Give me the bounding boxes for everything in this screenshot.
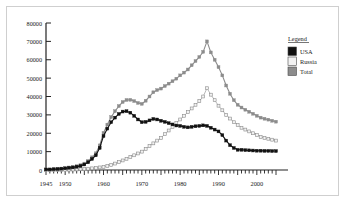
- data-point-marker: [244, 149, 247, 152]
- data-point-marker: [45, 168, 48, 171]
- data-point-marker: [102, 135, 105, 138]
- data-point-marker: [125, 99, 128, 102]
- data-point-marker: [167, 129, 170, 132]
- data-point-marker: [217, 130, 220, 133]
- data-point-marker: [236, 148, 239, 151]
- data-point-marker: [129, 156, 132, 159]
- y-tick-label: 0: [39, 167, 42, 174]
- data-point-marker: [202, 124, 205, 127]
- data-point-marker: [263, 149, 266, 152]
- data-series-group: [45, 40, 278, 172]
- data-point-marker: [194, 103, 197, 106]
- data-point-marker: [259, 149, 262, 152]
- data-point-marker: [125, 157, 128, 160]
- legend-swatch-russia: [288, 57, 297, 66]
- data-point-marker: [102, 165, 105, 168]
- data-point-marker: [121, 110, 124, 113]
- data-point-marker: [175, 124, 178, 127]
- x-tick-label: 1980: [174, 180, 187, 187]
- data-point-marker: [183, 114, 186, 117]
- data-point-marker: [229, 144, 232, 147]
- legend-label-total: Total: [300, 68, 313, 75]
- data-point-marker: [232, 121, 235, 124]
- data-point-marker: [179, 124, 182, 127]
- data-point-marker: [255, 114, 258, 117]
- data-point-marker: [144, 120, 147, 123]
- data-point-marker: [217, 104, 220, 107]
- data-point-marker: [121, 101, 124, 104]
- data-point-marker: [244, 128, 247, 131]
- data-point-marker: [144, 147, 147, 150]
- data-point-marker: [87, 161, 90, 164]
- data-point-marker: [179, 74, 182, 77]
- data-point-marker: [75, 168, 78, 171]
- data-point-marker: [213, 128, 216, 131]
- data-point-marker: [229, 117, 232, 120]
- data-point-marker: [240, 148, 243, 151]
- data-point-marker: [79, 165, 82, 168]
- data-point-marker: [171, 123, 174, 126]
- data-point-marker: [252, 149, 255, 152]
- data-point-marker: [137, 152, 140, 155]
- y-tick-label: 70000: [27, 38, 42, 45]
- data-point-marker: [190, 64, 193, 67]
- legend-title: Legend: [288, 35, 308, 42]
- data-point-marker: [106, 165, 109, 168]
- data-point-marker: [232, 147, 235, 150]
- data-point-marker: [137, 118, 140, 121]
- data-point-marker: [194, 125, 197, 128]
- data-point-marker: [110, 163, 113, 166]
- data-point-marker: [240, 126, 243, 129]
- data-point-marker: [213, 58, 216, 61]
- data-point-marker: [114, 110, 117, 113]
- data-point-marker: [229, 92, 232, 95]
- data-point-marker: [152, 142, 155, 145]
- data-point-marker: [198, 124, 201, 127]
- data-point-marker: [83, 168, 86, 171]
- data-point-marker: [114, 116, 117, 119]
- y-tick-label: 30000: [27, 111, 42, 118]
- data-point-marker: [275, 139, 278, 142]
- x-axis-tick-labels: 1945195019601970198019902000: [40, 180, 264, 187]
- data-point-marker: [252, 112, 255, 115]
- data-point-marker: [267, 149, 270, 152]
- data-point-marker: [156, 89, 159, 92]
- data-point-marker: [255, 134, 258, 137]
- series-russia: [45, 87, 278, 172]
- data-point-marker: [148, 145, 151, 148]
- data-point-marker: [209, 126, 212, 129]
- data-point-marker: [91, 158, 94, 161]
- data-point-marker: [114, 162, 117, 165]
- data-point-marker: [194, 60, 197, 63]
- data-point-marker: [213, 99, 216, 102]
- chart-svg: 0100002000030000400005000060000700008000…: [0, 0, 347, 204]
- data-point-marker: [225, 113, 228, 116]
- data-point-marker: [117, 161, 120, 164]
- data-point-marker: [156, 118, 159, 121]
- data-point-marker: [221, 109, 224, 112]
- data-point-marker: [202, 50, 205, 53]
- legend-label-russia: Russia: [300, 58, 317, 65]
- data-point-marker: [52, 168, 55, 171]
- data-point-marker: [271, 138, 274, 141]
- data-point-marker: [225, 139, 228, 142]
- y-tick-label: 10000: [27, 148, 42, 155]
- data-point-marker: [110, 116, 113, 119]
- data-point-marker: [60, 167, 63, 170]
- data-point-marker: [221, 74, 224, 77]
- data-point-marker: [133, 100, 136, 103]
- data-point-marker: [148, 119, 151, 122]
- data-point-marker: [71, 166, 74, 169]
- data-point-marker: [87, 167, 90, 170]
- chart-legend: LegendUSARussiaTotal: [288, 35, 317, 76]
- data-point-marker: [259, 116, 262, 119]
- data-point-marker: [209, 93, 212, 96]
- data-point-marker: [198, 56, 201, 59]
- data-point-marker: [140, 150, 143, 153]
- data-point-marker: [275, 150, 278, 153]
- data-point-marker: [137, 101, 140, 104]
- data-point-marker: [117, 105, 120, 108]
- y-tick-label: 60000: [27, 56, 42, 63]
- data-point-marker: [236, 124, 239, 127]
- data-point-marker: [148, 95, 151, 98]
